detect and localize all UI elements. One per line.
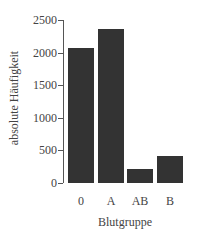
y-tick [58, 53, 63, 54]
x-tick-label: B [155, 195, 185, 207]
y-tick-label: 2500 [33, 14, 57, 26]
y-tick [58, 150, 63, 151]
bar-0 [68, 48, 94, 183]
x-tick-label: 0 [66, 195, 96, 207]
y-tick-label: 1000 [33, 112, 57, 124]
y-tick-label: 1500 [33, 79, 57, 91]
bar-ab [127, 169, 153, 183]
bar-chart: absolute Häufigkeit 05001000150020002500… [0, 0, 200, 241]
y-tick [58, 118, 63, 119]
y-axis-title: absolute Häufigkeit [8, 51, 20, 145]
y-tick [58, 20, 63, 21]
y-axis-line [63, 20, 64, 183]
y-tick [58, 183, 63, 184]
y-tick-label: 500 [39, 144, 57, 156]
bar-b [157, 156, 183, 183]
y-tick [58, 85, 63, 86]
x-axis-title: Blutgruppe [95, 216, 155, 228]
x-tick-label: AB [125, 195, 155, 207]
y-tick-label: 0 [51, 177, 57, 189]
bar-a [98, 29, 124, 183]
y-tick-label: 2000 [33, 47, 57, 59]
x-tick-label: A [96, 195, 126, 207]
